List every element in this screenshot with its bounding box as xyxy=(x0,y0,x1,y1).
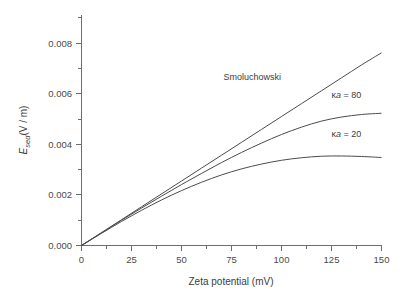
x-tick-label-1: 25 xyxy=(126,254,137,265)
x-axis-title: Zeta potential (mV) xyxy=(188,276,273,287)
annotation-kappa-a-20: κa = 20 xyxy=(332,129,362,139)
y-axis-units: (V / m) xyxy=(18,106,29,136)
sedimentation-potential-chart: 0.000 0.002 0.004 0.006 0.008 0 xyxy=(0,0,407,295)
annotation-smoluchowski: Smoluchowski xyxy=(224,72,282,82)
y-axis-subscript: sed xyxy=(23,135,32,148)
x-tick-label-3: 75 xyxy=(226,254,237,265)
y-tick-label-4: 0.008 xyxy=(48,38,72,49)
x-tick-label-2: 50 xyxy=(176,254,187,265)
x-tick-label-0: 0 xyxy=(79,254,84,265)
kappa-80-value: = 80 xyxy=(341,90,361,100)
x-tick-label-4: 100 xyxy=(274,254,290,265)
x-tick-label-5: 125 xyxy=(324,254,340,265)
y-tick-label-0: 0.000 xyxy=(48,240,72,251)
kappa-20-value: = 20 xyxy=(341,129,361,139)
x-tick-label-6: 150 xyxy=(374,254,390,265)
chart-figure: 0.000 0.002 0.004 0.006 0.008 0 xyxy=(0,0,407,295)
y-tick-label-3: 0.006 xyxy=(48,88,72,99)
annotation-kappa-a-80: κa = 80 xyxy=(332,90,362,100)
y-tick-label-2: 0.004 xyxy=(48,139,72,150)
y-tick-label-1: 0.002 xyxy=(48,189,72,200)
